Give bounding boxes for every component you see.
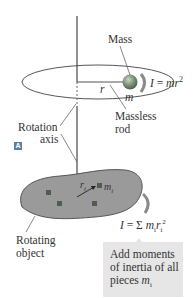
mass-piece bbox=[46, 190, 51, 195]
note-line-2: of inertia of all bbox=[110, 261, 183, 274]
massless-rod-label-1: Massless bbox=[115, 110, 157, 123]
rotation-arrow-icon bbox=[143, 194, 148, 213]
note-line-1: Add moments bbox=[110, 248, 183, 261]
mass-piece-i bbox=[97, 183, 102, 188]
sum-equation: I = Σ miri2 bbox=[120, 218, 166, 234]
note-box: Add moments of inertia of all pieces mi bbox=[103, 242, 183, 297]
mass-label: Mass bbox=[108, 33, 132, 46]
radius-label: r bbox=[100, 83, 104, 96]
mass-piece bbox=[92, 201, 97, 206]
massless-rod-label-2: rod bbox=[115, 123, 130, 136]
piece-mass-label: mi bbox=[104, 180, 113, 198]
rotation-arrow-icon bbox=[141, 74, 145, 92]
rotating-object-label-1: Rotating bbox=[16, 234, 56, 247]
mass-sphere bbox=[123, 75, 138, 90]
panel-label: A bbox=[14, 142, 22, 150]
rotation-axis-label-2: axis bbox=[40, 133, 59, 146]
piece-radius-label: ri bbox=[80, 178, 86, 196]
rotating-object-label-2: object bbox=[16, 247, 44, 260]
point-mass-equation: I = mr2 bbox=[150, 75, 183, 89]
mass-piece bbox=[57, 201, 62, 206]
note-line-3: pieces mi bbox=[110, 274, 183, 292]
mass-symbol-label: m bbox=[125, 91, 133, 104]
